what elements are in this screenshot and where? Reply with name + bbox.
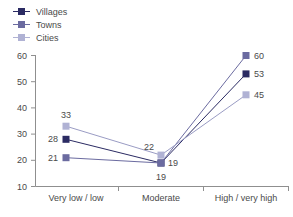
y-tick-label-40: 40 [17, 103, 27, 113]
legend-label-villages: Villages [36, 7, 68, 17]
legend-item-villages[interactable]: Villages [13, 7, 68, 17]
value-label-towns-moderate: 19 [168, 158, 178, 168]
legend-marker-cities [18, 34, 25, 41]
value-label-cities-moderate: 22 [144, 142, 154, 152]
legend-item-towns[interactable]: Towns [13, 20, 62, 30]
x-tick-label-moderate: Moderate [142, 193, 180, 203]
legend-item-cities[interactable]: Cities [13, 33, 59, 43]
legend-label-towns: Towns [36, 20, 62, 30]
value-label-cities-very-low-low: 33 [61, 110, 71, 120]
legend-marker-villages [18, 8, 25, 15]
x-axis-tick-labels: Very low / low Moderate High / very high [48, 193, 277, 203]
y-tick-label-50: 50 [17, 77, 27, 87]
value-label-villages-moderate: 19 [156, 172, 166, 182]
x-tick-marks [119, 187, 289, 192]
axis-lines [36, 55, 290, 187]
value-label-villages-very-low-low: 28 [48, 134, 58, 144]
legend-label-cities: Cities [36, 33, 59, 43]
y-tick-label-20: 20 [17, 155, 27, 165]
series-line-towns [66, 56, 246, 164]
y-axis-tick-labels: 60 50 40 30 20 10 [17, 51, 27, 192]
legend-marker-towns [18, 21, 25, 28]
value-label-villages-high-very-high: 53 [254, 69, 264, 79]
data-point-cities-moderate[interactable] [158, 152, 165, 159]
data-point-villages-very-low-low[interactable] [63, 136, 70, 143]
x-tick-label-very-low-low: Very low / low [48, 193, 104, 203]
series-cities [63, 91, 250, 158]
series-towns [63, 52, 250, 167]
line-chart: Villages Towns Cities [0, 0, 293, 217]
y-tick-label-30: 30 [17, 129, 27, 139]
y-tick-label-60: 60 [17, 51, 27, 61]
data-point-towns-moderate[interactable] [158, 160, 165, 167]
chart-canvas: Villages Towns Cities [0, 0, 293, 217]
series-villages [63, 70, 250, 166]
x-tick-label-high-very-high: High / very high [215, 193, 278, 203]
y-tick-label-10: 10 [17, 182, 27, 192]
data-point-towns-very-low-low[interactable] [63, 154, 70, 161]
value-label-cities-high-very-high: 45 [254, 90, 264, 100]
data-point-cities-high-very-high[interactable] [243, 91, 250, 98]
chart-legend: Villages Towns Cities [13, 7, 68, 43]
data-point-villages-high-very-high[interactable] [243, 70, 250, 77]
data-point-towns-high-very-high[interactable] [243, 52, 250, 59]
y-tick-marks [31, 56, 36, 187]
series-line-villages [66, 74, 246, 163]
value-label-towns-high-very-high: 60 [254, 51, 264, 61]
value-label-towns-very-low-low: 21 [48, 153, 58, 163]
data-point-cities-very-low-low[interactable] [63, 123, 70, 130]
